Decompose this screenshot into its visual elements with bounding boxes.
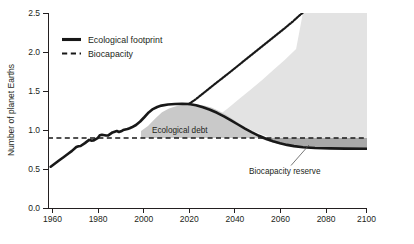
- x-axis-ticks: [53, 208, 367, 213]
- y-tick-label: 2.5: [28, 8, 40, 18]
- x-tick-label: 1960: [43, 214, 62, 224]
- y-axis-title: Number of planet Earths: [6, 64, 16, 156]
- x-tick-label: 2100: [357, 214, 376, 224]
- legend-label-ecological-footprint: Ecological footprint: [88, 35, 163, 45]
- annotation-ecological-debt: Ecological debt: [152, 126, 208, 135]
- chart-figure: 0.0 0.5 1.0 1.5 2.0 2.5 1960 1980: [0, 0, 414, 244]
- x-tick-label: 2080: [317, 214, 336, 224]
- x-tick-label: 2040: [225, 214, 244, 224]
- annotation-biocapacity-reserve: Biocapacity reserve: [249, 167, 321, 176]
- x-tick-label: 2060: [271, 214, 290, 224]
- y-tick-label: 0.5: [28, 164, 40, 174]
- y-tick-label: 0.0: [28, 203, 40, 213]
- x-tick-label: 2000: [134, 214, 153, 224]
- y-axis-tick-labels: 0.0 0.5 1.0 1.5 2.0 2.5: [28, 8, 40, 213]
- chart-legend: Ecological footprint Biocapacity: [62, 35, 163, 59]
- y-tick-label: 2.0: [28, 47, 40, 57]
- x-tick-label: 2020: [180, 214, 199, 224]
- legend-label-biocapacity: Biocapacity: [88, 49, 134, 59]
- y-tick-label: 1.0: [28, 125, 40, 135]
- x-axis-tick-labels: 1960 1980 2000 2020 2040 2060 2080 2100: [43, 214, 376, 224]
- ecological-footprint-chart: 0.0 0.5 1.0 1.5 2.0 2.5 1960 1980: [0, 0, 414, 244]
- y-tick-label: 1.5: [28, 86, 40, 96]
- y-axis-ticks: [43, 13, 48, 208]
- x-tick-label: 1980: [89, 214, 108, 224]
